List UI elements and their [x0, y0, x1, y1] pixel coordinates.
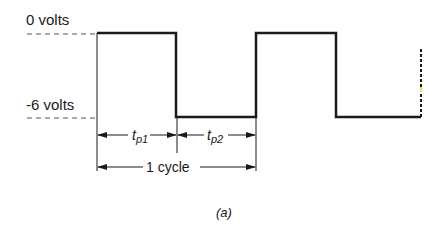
- edge-marker: [420, 87, 423, 92]
- tp2-label: tp2: [207, 127, 223, 145]
- square-waveform: [97, 33, 421, 117]
- low-level-label: -6 volts: [26, 96, 74, 113]
- tp1-label: tp1: [132, 127, 148, 145]
- square-wave-diagram: 0 volts -6 volts tp1 tp2 1 cycle (a): [0, 0, 447, 229]
- figure-caption: (a): [216, 205, 232, 220]
- high-level-label: 0 volts: [26, 11, 69, 28]
- cycle-label: 1 cycle: [146, 159, 190, 175]
